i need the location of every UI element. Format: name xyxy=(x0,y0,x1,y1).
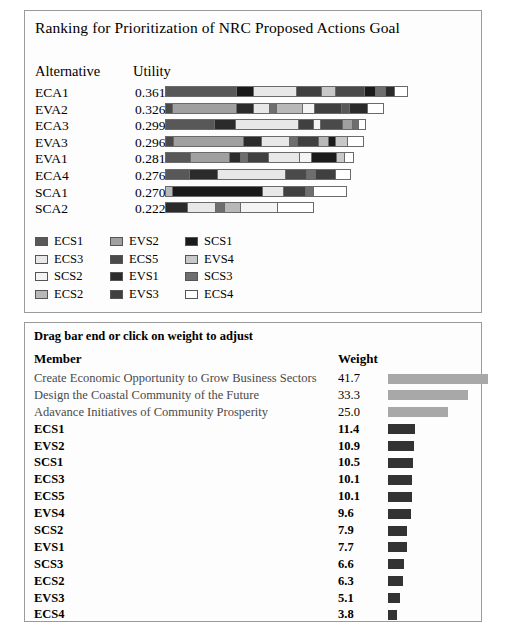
bar-segment[interactable] xyxy=(314,120,321,129)
bar-segment[interactable] xyxy=(303,104,316,113)
bar-segment[interactable] xyxy=(244,137,262,146)
utility-stacked-bar[interactable] xyxy=(165,136,364,147)
bar-segment[interactable] xyxy=(316,170,337,179)
weight-value[interactable]: 10.5 xyxy=(338,455,360,470)
weight-value[interactable]: 25.0 xyxy=(338,405,360,420)
weight-row[interactable]: SCS36.6 xyxy=(25,557,481,574)
bar-segment[interactable] xyxy=(299,120,314,129)
legend-item-ecs5[interactable]: ECS5 xyxy=(110,251,185,269)
bar-segment[interactable] xyxy=(298,137,319,146)
bar-segment[interactable] xyxy=(314,187,345,196)
bar-segment[interactable] xyxy=(254,87,297,96)
alternative-row[interactable]: ECA10.361 xyxy=(25,85,481,102)
alternative-row[interactable]: EVA30.296 xyxy=(25,135,481,152)
bar-segment[interactable] xyxy=(166,187,173,196)
bar-segment[interactable] xyxy=(336,87,365,96)
utility-stacked-bar[interactable] xyxy=(165,169,351,180)
bar-segment[interactable] xyxy=(336,137,348,146)
alternative-row[interactable]: ECA40.276 xyxy=(25,168,481,185)
legend-item-evs1[interactable]: EVS1 xyxy=(110,268,185,286)
bar-segment[interactable] xyxy=(386,87,395,96)
bar-segment[interactable] xyxy=(166,120,215,129)
bar-segment[interactable] xyxy=(395,87,407,96)
bar-segment[interactable] xyxy=(188,203,216,212)
bar-segment[interactable] xyxy=(350,104,368,113)
bar-segment[interactable] xyxy=(241,203,278,212)
bar-segment[interactable] xyxy=(166,104,173,113)
legend-item-ecs1[interactable]: ECS1 xyxy=(35,233,110,251)
utility-stacked-bar[interactable] xyxy=(165,202,314,213)
weight-row[interactable]: EVS49.6 xyxy=(25,506,481,523)
bar-segment[interactable] xyxy=(218,170,287,179)
weight-row[interactable]: SCS110.5 xyxy=(25,455,481,472)
weight-bar[interactable] xyxy=(388,475,412,485)
bar-segment[interactable] xyxy=(336,170,349,179)
weight-bar[interactable] xyxy=(388,407,448,417)
weight-value[interactable]: 9.6 xyxy=(338,506,354,521)
weight-bar[interactable] xyxy=(388,374,488,384)
bar-segment[interactable] xyxy=(365,87,376,96)
bar-segment[interactable] xyxy=(307,170,316,179)
bar-segment[interactable] xyxy=(348,137,363,146)
weight-row[interactable]: ECS43.8 xyxy=(25,607,481,624)
weight-bar[interactable] xyxy=(388,610,397,620)
weight-row[interactable]: EVS35.1 xyxy=(25,591,481,608)
bar-segment[interactable] xyxy=(237,104,254,113)
weight-value[interactable]: 6.6 xyxy=(338,557,354,572)
weight-row[interactable]: EVS210.9 xyxy=(25,439,481,456)
weight-bar[interactable] xyxy=(388,492,412,502)
weight-value[interactable]: 3.8 xyxy=(338,607,354,622)
utility-stacked-bar[interactable] xyxy=(165,152,354,163)
bar-segment[interactable] xyxy=(342,104,350,113)
bar-segment[interactable] xyxy=(166,137,174,146)
bar-segment[interactable] xyxy=(190,170,218,179)
alternative-row[interactable]: ECA30.299 xyxy=(25,118,481,135)
bar-segment[interactable] xyxy=(290,137,298,146)
weight-bar[interactable] xyxy=(388,441,414,451)
weight-value[interactable]: 10.1 xyxy=(338,489,360,504)
bar-segment[interactable] xyxy=(321,120,343,129)
bar-segment[interactable] xyxy=(216,203,225,212)
bar-segment[interactable] xyxy=(166,170,190,179)
weight-value[interactable]: 11.4 xyxy=(338,422,359,437)
weight-value[interactable]: 5.1 xyxy=(338,591,354,606)
bar-segment[interactable] xyxy=(166,203,188,212)
bar-segment[interactable] xyxy=(278,203,314,212)
bar-segment[interactable] xyxy=(241,153,248,162)
weight-row[interactable]: ECS510.1 xyxy=(25,489,481,506)
bar-segment[interactable] xyxy=(368,104,383,113)
bar-segment[interactable] xyxy=(173,187,263,196)
bar-segment[interactable] xyxy=(322,87,336,96)
bar-segment[interactable] xyxy=(174,137,245,146)
bar-segment[interactable] xyxy=(300,153,312,162)
bar-segment[interactable] xyxy=(286,170,307,179)
utility-stacked-bar[interactable] xyxy=(165,186,347,197)
bar-segment[interactable] xyxy=(166,87,237,96)
bar-segment[interactable] xyxy=(191,153,230,162)
legend-item-evs4[interactable]: EVS4 xyxy=(185,251,260,269)
legend-item-scs2[interactable]: SCS2 xyxy=(35,268,110,286)
weight-bar[interactable] xyxy=(388,576,403,586)
bar-segment[interactable] xyxy=(312,153,337,162)
weight-value[interactable]: 7.7 xyxy=(338,540,354,555)
bar-segment[interactable] xyxy=(315,104,342,113)
weight-value[interactable]: 41.7 xyxy=(338,371,360,386)
bar-segment[interactable] xyxy=(262,137,290,146)
bar-segment[interactable] xyxy=(166,153,191,162)
legend-item-ecs2[interactable]: ECS2 xyxy=(35,286,110,304)
weight-bar[interactable] xyxy=(388,593,400,603)
bar-segment[interactable] xyxy=(359,120,366,129)
bar-segment[interactable] xyxy=(319,137,329,146)
bar-segment[interactable] xyxy=(215,120,236,129)
weight-bar[interactable] xyxy=(388,542,407,552)
weight-row[interactable]: ECS26.3 xyxy=(25,574,481,591)
legend-item-evs3[interactable]: EVS3 xyxy=(110,286,185,304)
weight-value[interactable]: 10.9 xyxy=(338,439,360,454)
bar-segment[interactable] xyxy=(230,153,241,162)
bar-segment[interactable] xyxy=(345,153,353,162)
legend-item-ecs3[interactable]: ECS3 xyxy=(35,251,110,269)
weight-bar[interactable] xyxy=(388,559,404,569)
weight-bar[interactable] xyxy=(388,458,413,468)
weight-value[interactable]: 10.1 xyxy=(338,472,360,487)
bar-segment[interactable] xyxy=(270,104,277,113)
